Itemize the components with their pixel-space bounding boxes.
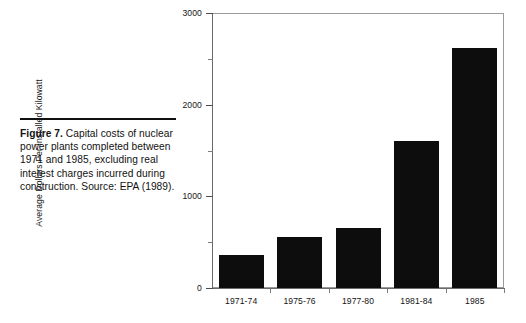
y-tick-minor <box>208 151 213 152</box>
y-tick-minor <box>208 59 213 60</box>
y-tick-label: 1000 <box>162 191 202 201</box>
bar <box>452 48 497 288</box>
bar <box>277 237 322 288</box>
x-tick <box>387 289 388 293</box>
x-tick <box>329 289 330 293</box>
bar <box>394 141 439 288</box>
x-axis-line <box>212 288 505 289</box>
x-tick <box>504 289 505 293</box>
y-tick <box>206 288 213 289</box>
y-tick-label: 3000 <box>162 8 202 18</box>
figure-page: Figure 7. Capital costs of nuclear power… <box>0 0 526 323</box>
y-tick-minor <box>208 242 213 243</box>
y-tick <box>206 196 213 197</box>
x-tick <box>270 289 271 293</box>
x-tick-label: 1985 <box>440 296 510 306</box>
bar <box>336 228 381 288</box>
y-tick <box>206 13 213 14</box>
y-tick <box>206 105 213 106</box>
bar <box>219 255 264 288</box>
y-tick-label: 0 <box>162 283 202 293</box>
y-axis-title: Average Dollars Per Installed Kilowatt <box>34 53 44 253</box>
y-tick-label: 2000 <box>162 100 202 110</box>
bar-chart: Average Dollars Per Installed Kilowatt 0… <box>0 0 526 323</box>
x-tick <box>446 289 447 293</box>
